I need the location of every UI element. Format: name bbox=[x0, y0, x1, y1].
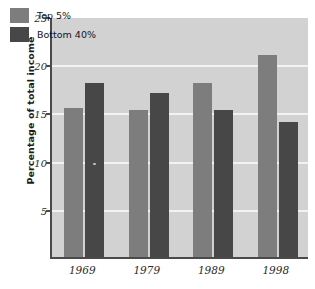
chart-figure: Percentage of total income 510152025 196… bbox=[0, 0, 315, 289]
chart-legend: Top 5%Bottom 40% bbox=[10, 6, 118, 44]
bar-group bbox=[117, 18, 182, 257]
bar bbox=[214, 110, 233, 257]
bar-group bbox=[52, 18, 117, 257]
y-axis-tick-label: 10 bbox=[7, 157, 47, 168]
bar bbox=[193, 83, 212, 257]
bar bbox=[64, 108, 83, 257]
x-axis-tick-label: 1989 bbox=[176, 264, 246, 276]
bar bbox=[85, 83, 104, 257]
y-axis-tick-label: 20 bbox=[7, 61, 47, 72]
legend-color-swatch bbox=[10, 8, 29, 23]
image-artifact-speck bbox=[93, 163, 96, 165]
x-axis-tick-label: 1979 bbox=[112, 264, 182, 276]
y-axis-tick-label: 5 bbox=[7, 205, 47, 216]
legend-label: Top 5% bbox=[37, 10, 71, 21]
bar-group bbox=[181, 18, 246, 257]
x-axis-tick-label: 1998 bbox=[241, 264, 311, 276]
y-axis-tick-label: 15 bbox=[7, 109, 47, 120]
legend-label: Bottom 40% bbox=[37, 29, 96, 40]
bar bbox=[258, 55, 277, 257]
bar-group bbox=[246, 18, 309, 257]
bar-series-container bbox=[52, 18, 308, 257]
bar bbox=[129, 110, 148, 257]
legend-item: Bottom 40% bbox=[10, 25, 118, 44]
legend-item: Top 5% bbox=[10, 6, 118, 25]
x-axis-tick-label: 1969 bbox=[47, 264, 117, 276]
bar bbox=[279, 122, 298, 257]
bar bbox=[150, 93, 169, 257]
legend-color-swatch bbox=[10, 27, 29, 42]
plot-area bbox=[50, 18, 308, 259]
